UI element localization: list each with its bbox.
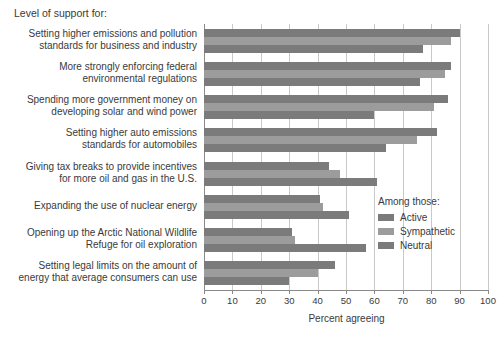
- legend-title: Among those:: [378, 196, 455, 207]
- legend-label: Sympathetic: [400, 226, 455, 237]
- x-tick-label: 10: [227, 295, 238, 306]
- x-tick: [318, 290, 319, 294]
- legend-swatch-icon: [378, 242, 394, 249]
- category-label: Spending more government money on develo…: [27, 94, 197, 118]
- bar: [204, 178, 377, 186]
- category-label: Setting higher emissions and pollution s…: [29, 28, 197, 52]
- category-label: Setting legal limits on the amount of en…: [19, 260, 197, 284]
- gridline: [488, 24, 489, 290]
- x-tick: [232, 290, 233, 294]
- legend-item[interactable]: Active: [378, 210, 455, 224]
- legend-item[interactable]: Neutral: [378, 238, 455, 252]
- x-tick-label: 30: [284, 295, 295, 306]
- x-tick: [261, 290, 262, 294]
- bar: [204, 62, 451, 70]
- bar: [204, 203, 323, 211]
- bar: [204, 70, 445, 78]
- bar: [204, 111, 374, 119]
- category-label: Giving tax breaks to provide incentives …: [26, 161, 197, 185]
- bar: [204, 37, 451, 45]
- bar: [204, 136, 417, 144]
- category-label: Expanding the use of nuclear energy: [34, 200, 197, 212]
- bar: [204, 244, 366, 252]
- x-tick-label: 40: [312, 295, 323, 306]
- x-tick-label: 20: [256, 295, 267, 306]
- category-label: More strongly enforcing federal environm…: [59, 61, 197, 85]
- bar: [204, 95, 448, 103]
- x-tick: [431, 290, 432, 294]
- x-tick-label: 0: [201, 295, 206, 306]
- bar: [204, 236, 295, 244]
- bar: [204, 211, 349, 219]
- legend-swatch-icon: [378, 214, 394, 221]
- x-tick-label: 80: [426, 295, 437, 306]
- x-tick-label: 90: [454, 295, 465, 306]
- x-tick: [403, 290, 404, 294]
- x-tick: [346, 290, 347, 294]
- x-tick: [289, 290, 290, 294]
- category-label: Setting higher auto emissions standards …: [66, 127, 197, 151]
- x-tick: [374, 290, 375, 294]
- legend-swatch-icon: [378, 228, 394, 235]
- x-tick: [460, 290, 461, 294]
- bar: [204, 170, 340, 178]
- x-tick: [488, 290, 489, 294]
- bar: [204, 261, 335, 269]
- category-label: Opening up the Arctic National Wildlife …: [27, 227, 197, 251]
- bar: [204, 269, 318, 277]
- bar: [204, 144, 386, 152]
- bar: [204, 45, 423, 53]
- x-tick-label: 60: [369, 295, 380, 306]
- gridline: [460, 24, 461, 290]
- bar: [204, 103, 434, 111]
- legend-label: Active: [400, 212, 427, 223]
- bar: [204, 29, 460, 37]
- chart-title: Level of support for:: [14, 7, 107, 19]
- x-tick: [204, 290, 205, 294]
- legend-entries: ActiveSympatheticNeutral: [378, 210, 455, 252]
- bar: [204, 78, 420, 86]
- bar: [204, 277, 289, 285]
- x-axis-label: Percent agreeing: [204, 313, 489, 324]
- bar: [204, 162, 329, 170]
- legend-item[interactable]: Sympathetic: [378, 224, 455, 238]
- bar-chart: Level of support for: Setting higher emi…: [0, 0, 499, 339]
- x-tick-label: 100: [480, 295, 496, 306]
- bar: [204, 195, 320, 203]
- bar: [204, 128, 437, 136]
- x-tick-label: 70: [398, 295, 409, 306]
- legend-label: Neutral: [400, 240, 432, 251]
- legend: Among those: ActiveSympatheticNeutral: [378, 196, 455, 252]
- bar: [204, 228, 292, 236]
- x-tick-label: 50: [341, 295, 352, 306]
